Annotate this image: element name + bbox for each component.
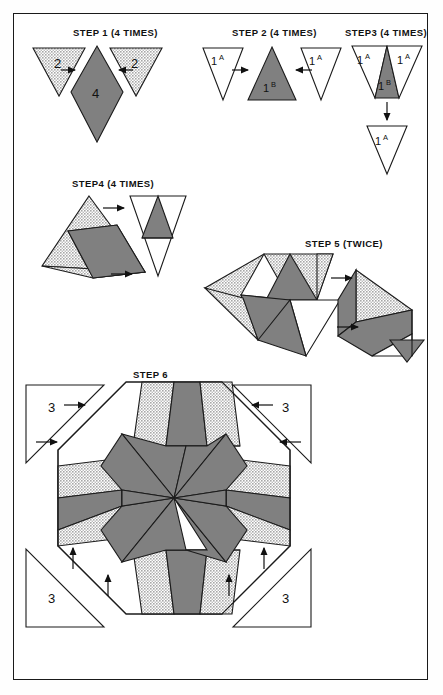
step2-left-value: 1	[211, 55, 217, 67]
step1-center-value: 4	[92, 86, 99, 101]
step4-label: STEP4 (4 TIMES)	[72, 178, 154, 189]
step2-right-sup: A	[317, 53, 322, 62]
step6-br-value: 3	[282, 591, 289, 606]
step5-right-assembly	[338, 270, 424, 362]
step6-group: STEP 6 3 3 3 3	[26, 369, 311, 627]
step1-label: STEP 1 (4 TIMES)	[73, 27, 158, 38]
step6-top-stipple-right	[200, 382, 240, 446]
step2-right-value: 1	[309, 55, 315, 67]
step2-left-sup: A	[219, 53, 224, 62]
step3-center-sup: B	[386, 78, 391, 87]
step3-center-value: 1	[378, 80, 384, 92]
step5-left-stipple-right	[317, 254, 333, 300]
assembly-diagram: STEP 1 (4 TIMES) 2 4 2 STEP 2 (4 TIMES) …	[0, 0, 443, 695]
step4-group: STEP4 (4 TIMES)	[42, 178, 186, 278]
step1-group: STEP 1 (4 TIMES) 2 4 2	[33, 27, 162, 142]
step6-tl-value: 3	[48, 400, 55, 415]
step4-left-assembly	[42, 196, 145, 278]
step3-bottom-sup: A	[383, 133, 388, 142]
step6-bl-value: 3	[48, 591, 55, 606]
step2-center-sup: B	[271, 80, 276, 89]
step3-right-sup: A	[405, 52, 410, 61]
step1-left-value: 2	[54, 56, 61, 71]
step5-label: STEP 5 (TWICE)	[305, 238, 383, 249]
diagram-page: STEP 1 (4 TIMES) 2 4 2 STEP 2 (4 TIMES) …	[0, 0, 443, 695]
step5-group: STEP 5 (TWICE)	[205, 238, 424, 362]
step3-bottom-value: 1	[375, 135, 381, 147]
step1-right-value: 2	[131, 56, 138, 71]
step2-label: STEP 2 (4 TIMES)	[232, 27, 317, 38]
step6-label: STEP 6	[133, 369, 168, 380]
step3-left-value: 1	[357, 54, 363, 66]
step3-label: STEP3 (4 TIMES)	[345, 27, 427, 38]
step2-center-value: 1	[263, 82, 269, 94]
step2-center-triangle-1b	[248, 47, 296, 100]
step3-group: STEP3 (4 TIMES) 1 A 1 B 1 A 1 A	[345, 27, 427, 174]
step6-tr-value: 3	[282, 400, 289, 415]
step6-center-octagon-star	[58, 382, 290, 614]
step5-left-assembly	[205, 254, 340, 356]
step3-left-sup: A	[365, 52, 370, 61]
step2-group: STEP 2 (4 TIMES) 1 A 1 B 1 A	[203, 27, 341, 100]
step3-right-value: 1	[397, 54, 403, 66]
